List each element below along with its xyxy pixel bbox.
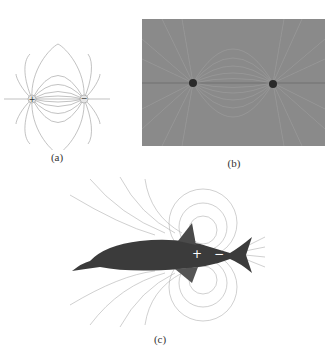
dipole-field-lines: + − — [0, 40, 115, 150]
fish-body — [72, 237, 252, 273]
panel-b-field-photo — [142, 19, 325, 146]
charge-dot-left — [189, 79, 197, 87]
fish-field-illustration: + − — [60, 175, 280, 335]
caption-a: (a) — [51, 151, 63, 163]
minus-sign: − — [81, 94, 88, 103]
plus-sign: + — [29, 95, 36, 104]
panel-c-electric-fish: + − — [60, 175, 280, 335]
charge-dot-right — [269, 80, 277, 88]
panel-a-dipole-diagram: + − — [0, 40, 115, 150]
caption-c: (c) — [154, 333, 166, 345]
photo-field-pattern — [142, 19, 325, 146]
minus-sign: − — [214, 247, 224, 261]
plus-sign: + — [192, 247, 202, 261]
caption-b: (b) — [228, 157, 241, 169]
